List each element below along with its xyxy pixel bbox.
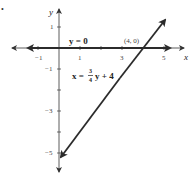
svg-text:y + 4: y + 4	[95, 71, 114, 81]
svg-text:x =: x =	[72, 71, 86, 81]
x-axis-label: x	[183, 52, 188, 62]
svg-text:4: 4	[89, 77, 92, 83]
line1-label: y = 0	[69, 36, 88, 46]
line2-label: x = 3 4 y + 4	[72, 68, 114, 83]
x-tick-label: 5	[162, 54, 166, 62]
y-axis-label: y	[48, 7, 53, 17]
y-tick-label: 1	[50, 23, 54, 31]
graph: −1 1 3 5 1 −1 −3 −5 x y • y = 0 (4, 0) x…	[0, 0, 192, 175]
y-axis	[57, 9, 61, 172]
y-tick-label: −1	[45, 65, 53, 73]
x-tick-label: −1	[35, 54, 43, 62]
x-tick-label: 1	[78, 54, 82, 62]
svg-text:3: 3	[89, 68, 92, 74]
y-tick-label: −3	[45, 107, 53, 115]
figure-marker: •	[1, 5, 4, 14]
intersection-label: (4, 0)	[124, 37, 140, 45]
y-tick-label: −5	[45, 149, 53, 157]
x-tick-label: 3	[120, 54, 124, 62]
